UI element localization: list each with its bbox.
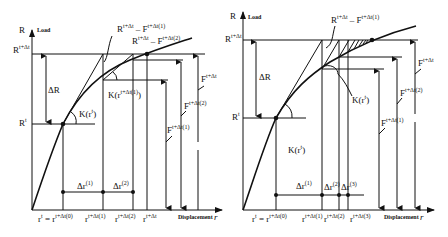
f-1-label: Ft+Δt(1): [167, 124, 190, 135]
k-rt-upper-label: K(rt): [352, 94, 369, 105]
k-rt-upper-leader: [338, 74, 352, 96]
tangent-2: [322, 40, 339, 69]
r-t-label: Rt: [19, 117, 27, 128]
k-rt-lower-label: K(rt): [288, 144, 305, 155]
tangent-1: [276, 40, 322, 118]
angle-arc-r1: [113, 72, 117, 80]
f-tdt-leader: [198, 86, 204, 90]
x-tick-rtdt: rt+Δt: [143, 213, 157, 224]
x-tick-rt: rt = rt+Δt(0): [252, 213, 287, 224]
f-2-leader: [397, 98, 402, 104]
f-1-leader: [379, 128, 385, 134]
residual-1-label: Rt+Δt – Ft+Δt(1): [331, 14, 379, 25]
x-tick-r3: rt+Δt(3): [350, 213, 371, 224]
increment-label-1: Δr(1): [77, 180, 93, 191]
point-rtdt: [145, 52, 150, 57]
y-axis-label: Load: [248, 14, 262, 20]
x-axis-label: Displacement: [178, 214, 213, 220]
angle-arc-rt: [71, 112, 76, 124]
left-panel: R Load Displacement r Rt+Δt Rt ΔR: [13, 23, 222, 224]
r-tdt-label: Rt+Δt: [225, 33, 242, 44]
f-1-label: Ft+Δt(1): [381, 117, 404, 128]
right-panel: R Load Displacement r Rt+Δt Rt ΔR: [225, 11, 434, 224]
x-tick-rt: rt = rt+Δt(0): [38, 213, 73, 224]
residual-1-leader: [104, 36, 112, 62]
r-tdt-label: Rt+Δt: [13, 44, 30, 55]
f-tdt-leader: [415, 69, 421, 74]
f-1-leader: [166, 136, 172, 142]
residual-1-leader: [326, 26, 335, 48]
x-tick-r1: rt+Δt(1): [302, 213, 323, 224]
f-2-label: Ft+Δt(2): [400, 87, 423, 98]
point-rt: [61, 122, 66, 127]
delta-r-label: ΔR: [259, 72, 271, 82]
increment-label-2: Δr(2): [113, 180, 129, 191]
x-tick-r2: rt+Δt(2): [324, 213, 345, 224]
tangent-k-r1: [103, 54, 133, 80]
x-tick-r2: rt+Δt(2): [115, 213, 136, 224]
y-axis-label: Load: [37, 27, 51, 33]
x-axis-label: Displacement: [384, 214, 419, 220]
newton-raphson-diagram: R Load Displacement r Rt+Δt Rt ΔR: [0, 0, 448, 237]
delta-r-label: ΔR: [48, 85, 60, 95]
k-rt-label: K(rt): [79, 108, 96, 119]
x-axis-symbol: r: [214, 212, 218, 222]
y-axis-symbol: R: [230, 11, 236, 21]
angle-arc-rt: [285, 104, 292, 118]
k-r1-label: K(rt+Δt(1)): [108, 89, 141, 100]
r-t-label: Rt: [232, 111, 240, 122]
x-tick-r1: rt+Δt(1): [85, 213, 106, 224]
residual-1-label: Rt+Δt – Ft+Δt(1): [117, 23, 165, 34]
x-axis-symbol: r: [420, 212, 424, 222]
f-tdt-label: Ft+Δt: [418, 57, 434, 68]
increment-label-2: Δr(2): [324, 181, 340, 192]
f-2-leader: [181, 111, 186, 116]
point-rt: [274, 116, 279, 121]
point-rtdt: [370, 38, 375, 43]
increment-label-3: Δr(3): [341, 181, 357, 192]
f-tdt-label: Ft+Δt: [201, 73, 217, 84]
increment-label-1: Δr(1): [296, 180, 312, 191]
f-2-label: Ft+Δt(2): [184, 100, 207, 111]
angle-arc-r1: [324, 66, 338, 74]
y-axis-symbol: R: [19, 25, 25, 35]
